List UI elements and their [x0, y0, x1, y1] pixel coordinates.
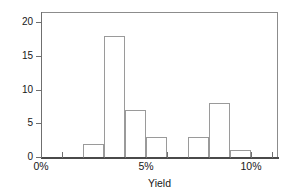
y-axis-tick	[36, 123, 41, 124]
x-axis-minor-tick	[167, 152, 168, 158]
y-axis-tick	[36, 90, 41, 91]
x-axis-tick	[41, 152, 42, 158]
histogram-bar	[188, 137, 209, 157]
x-axis-line	[41, 157, 279, 159]
plot-frame	[41, 12, 278, 157]
histogram-bar	[230, 150, 251, 157]
histogram-bar	[104, 36, 125, 157]
x-axis-tick-label: 10%	[231, 160, 271, 172]
x-axis-minor-tick	[272, 152, 273, 158]
histogram-figure: Frequency (number of bonds) 051015200%5%…	[0, 0, 292, 195]
x-axis-title: Yield	[41, 177, 278, 190]
x-axis-tick	[251, 152, 252, 158]
x-axis-tick-label: 5%	[126, 160, 166, 172]
histogram-bar	[83, 144, 104, 157]
histogram-bar	[209, 103, 230, 157]
x-axis-tick-label: 0%	[21, 160, 61, 172]
y-axis-tick-label: 20	[12, 17, 33, 27]
y-axis-tick-label: 5	[12, 118, 33, 128]
x-axis-minor-tick	[62, 152, 63, 158]
y-axis-tick	[36, 56, 41, 57]
y-axis-line	[41, 12, 42, 158]
y-axis-tick	[36, 22, 41, 23]
y-axis-tick-label: 10	[12, 85, 33, 95]
y-axis-tick-label: 15	[12, 51, 33, 61]
histogram-bar	[125, 110, 146, 157]
histogram-bar	[146, 137, 167, 157]
